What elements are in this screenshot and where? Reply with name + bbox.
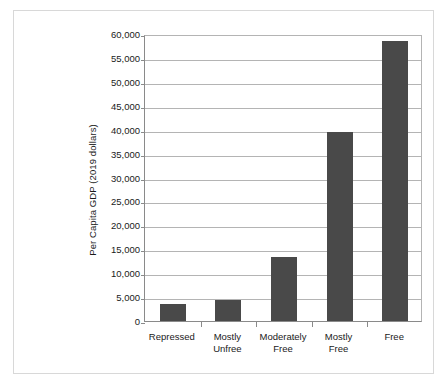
bar <box>382 41 408 321</box>
gridline <box>145 180 421 181</box>
y-tick-mark <box>141 180 145 181</box>
x-tick-label: Mostly Free <box>311 331 367 354</box>
gridline <box>145 227 421 228</box>
y-tick-label: 60,000 <box>94 30 140 40</box>
y-tick-label: 55,000 <box>94 54 140 64</box>
bar <box>327 132 353 321</box>
y-tick-mark <box>141 84 145 85</box>
y-tick-mark <box>141 36 145 37</box>
y-tick-mark <box>141 156 145 157</box>
y-tick-mark <box>141 60 145 61</box>
bar <box>271 257 297 321</box>
gridline <box>145 203 421 204</box>
x-tick-label: Moderately Free <box>255 331 311 354</box>
y-tick-mark <box>141 108 145 109</box>
gridline <box>145 251 421 252</box>
x-tick-mark <box>201 321 202 327</box>
y-tick-label: 40,000 <box>94 126 140 136</box>
y-tick-mark <box>141 132 145 133</box>
x-tick-label: Free <box>366 331 422 343</box>
y-tick-label: 10,000 <box>94 269 140 279</box>
y-tick-label: 25,000 <box>94 197 140 207</box>
x-tick-mark <box>367 321 368 327</box>
y-tick-label: 5,000 <box>94 293 140 303</box>
y-tick-mark <box>141 227 145 228</box>
y-tick-label: 30,000 <box>94 174 140 184</box>
gridline <box>145 84 421 85</box>
gridline <box>145 108 421 109</box>
x-tick-label: Mostly Unfree <box>200 331 256 354</box>
y-tick-label: 45,000 <box>94 102 140 112</box>
plot-area <box>144 35 422 322</box>
x-tick-label: Repressed <box>144 331 200 343</box>
y-tick-label: 20,000 <box>94 221 140 231</box>
x-tick-mark <box>312 321 313 327</box>
gridline <box>145 132 421 133</box>
chart-figure: Per Capita GDP (2019 dollars) 05,00010,0… <box>0 0 448 387</box>
x-axis-tick-labels: RepressedMostly UnfreeModerately FreeMos… <box>144 331 422 371</box>
y-tick-mark <box>141 251 145 252</box>
y-axis-tick-labels: 05,00010,00015,00020,00025,00030,00035,0… <box>92 0 140 387</box>
y-tick-label: 0 <box>94 317 140 327</box>
bar <box>215 300 241 321</box>
y-tick-mark <box>141 299 145 300</box>
y-tick-mark <box>141 323 145 324</box>
y-tick-label: 50,000 <box>94 78 140 88</box>
y-tick-mark <box>141 203 145 204</box>
gridline <box>145 156 421 157</box>
y-tick-label: 15,000 <box>94 245 140 255</box>
x-tick-mark <box>256 321 257 327</box>
y-tick-label: 35,000 <box>94 150 140 160</box>
y-tick-mark <box>141 275 145 276</box>
gridline <box>145 60 421 61</box>
bar <box>160 304 186 321</box>
